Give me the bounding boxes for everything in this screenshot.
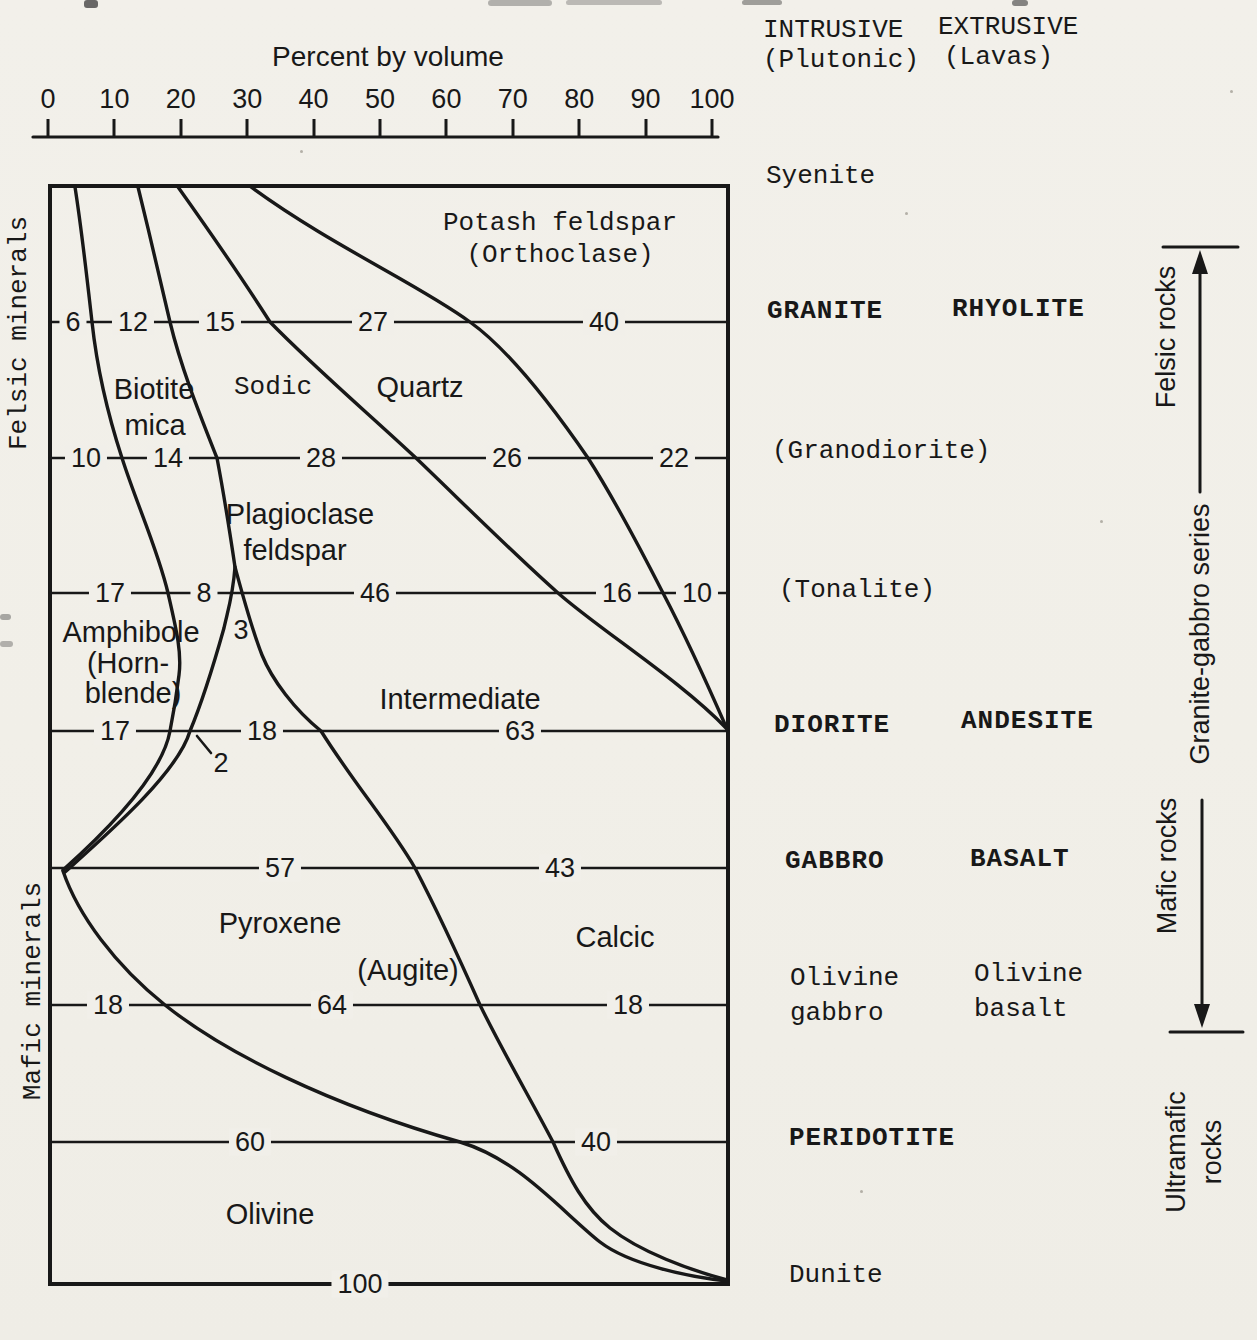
axis-tick-mark bbox=[711, 119, 714, 138]
rock-granite: GRANITE bbox=[767, 295, 883, 329]
value-diorite-amphibole: 17 bbox=[94, 718, 136, 745]
value-granite-biotite: 12 bbox=[112, 309, 154, 336]
column-header-extrusive: EXTRUSIVE bbox=[938, 11, 1078, 45]
field-amphibole-line2: (Horn- bbox=[87, 647, 169, 680]
value-gabbro-left: 57 bbox=[259, 855, 301, 882]
axis-tick-label: 40 bbox=[299, 86, 329, 113]
axis-tick-label: 100 bbox=[689, 86, 734, 113]
rock-dunite: Dunite bbox=[789, 1259, 883, 1293]
field-biotite-line2: mica bbox=[124, 409, 185, 442]
value-diorite-mid: 18 bbox=[241, 718, 283, 745]
value-gabbro-right: 43 bbox=[539, 855, 581, 882]
axis-tick-label: 60 bbox=[431, 86, 461, 113]
value-granodiorite-plagioclase: 28 bbox=[300, 445, 342, 472]
value-olivinegabbro-pyroxene: 64 bbox=[311, 992, 353, 1019]
axis-tick-label: 30 bbox=[232, 86, 262, 113]
rock-syenite: Syenite bbox=[766, 160, 875, 194]
field-augite: (Augite) bbox=[357, 954, 459, 987]
axis-tick-label: 90 bbox=[631, 86, 661, 113]
field-intermediate: Intermediate bbox=[379, 683, 540, 716]
rock-olivine-gabbro-line2: gabbro bbox=[790, 997, 884, 1031]
rock-rhyolite: RHYOLITE bbox=[952, 293, 1085, 327]
side-label-ultramafic-line2: rocks bbox=[1197, 1120, 1228, 1185]
field-quartz: Quartz bbox=[376, 371, 463, 404]
axis-tick-label: 10 bbox=[99, 86, 129, 113]
rock-olivine-gabbro-line1: Olivine bbox=[790, 962, 899, 996]
field-sodic: Sodic bbox=[234, 371, 312, 405]
field-amphibole-line1: Amphibole bbox=[62, 616, 199, 649]
column-header-plutonic: (Plutonic) bbox=[763, 44, 919, 78]
value-granodiorite-amphibole: 10 bbox=[65, 445, 107, 472]
value-granodiorite-biotite: 14 bbox=[147, 445, 189, 472]
side-label-felsic-rocks: Felsic rocks bbox=[1151, 266, 1182, 409]
axis-tick-mark bbox=[113, 119, 116, 138]
value-tonalite-sliver: 3 bbox=[233, 617, 248, 644]
axis-tick-label: 0 bbox=[40, 86, 55, 113]
axis-tick-mark bbox=[312, 119, 315, 138]
value-peridotite-olivine: 60 bbox=[229, 1129, 271, 1156]
value-tonalite-quartz: 16 bbox=[596, 580, 638, 607]
rock-gabbro: GABBRO bbox=[785, 845, 885, 879]
field-potash-feldspar-line2: (Orthoclase) bbox=[466, 239, 653, 273]
value-tonalite-amphibole: 17 bbox=[89, 580, 131, 607]
field-plagioclase-line1: Plagioclase bbox=[226, 498, 374, 531]
side-label-granite-gabbro-series: Granite-gabbro series bbox=[1185, 503, 1216, 764]
left-label-felsic-minerals: Felsic minerals bbox=[3, 216, 37, 450]
diagram-canvas bbox=[0, 0, 1257, 1340]
value-granodiorite-potash: 22 bbox=[653, 445, 695, 472]
rock-tonalite: (Tonalite) bbox=[779, 574, 935, 608]
field-pyroxene: Pyroxene bbox=[219, 907, 342, 940]
rock-olivine-basalt-line1: Olivine bbox=[974, 958, 1083, 992]
column-header-intrusive: INTRUSIVE bbox=[763, 14, 903, 48]
field-biotite-line1: Biotite bbox=[114, 373, 195, 406]
axis-tick-mark bbox=[511, 119, 514, 138]
value-tonalite-biotite: 8 bbox=[190, 580, 217, 607]
axis-title: Percent by volume bbox=[272, 41, 504, 73]
field-plagioclase-line2: feldspar bbox=[243, 534, 346, 567]
axis-tick-mark bbox=[445, 119, 448, 138]
left-label-mafic-minerals: Mafic minerals bbox=[17, 882, 51, 1100]
field-olivine: Olivine bbox=[226, 1198, 315, 1231]
axis-tick-label: 50 bbox=[365, 86, 395, 113]
value-tonalite-potash: 10 bbox=[676, 580, 718, 607]
value-granite-amphibole: 6 bbox=[59, 309, 86, 336]
scanned-figure-page: Percent by volume 0102030405060708090100… bbox=[0, 0, 1257, 1340]
side-label-ultramafic-line1: Ultramafic bbox=[1161, 1091, 1192, 1213]
side-label-mafic-rocks: Mafic rocks bbox=[1152, 798, 1183, 935]
axis-tick-mark bbox=[47, 119, 50, 138]
axis-tick-mark bbox=[246, 119, 249, 138]
arrowhead-up bbox=[1192, 250, 1208, 274]
rock-andesite: ANDESITE bbox=[961, 705, 1094, 739]
leader-line-biotite-sliver bbox=[197, 736, 211, 753]
axis-tick-label: 80 bbox=[564, 86, 594, 113]
value-granite-quartz: 27 bbox=[352, 309, 394, 336]
value-olivinegabbro-olivine: 18 bbox=[87, 992, 129, 1019]
axis-tick-label: 70 bbox=[498, 86, 528, 113]
value-granodiorite-quartz: 26 bbox=[486, 445, 528, 472]
axis-tick-label: 20 bbox=[166, 86, 196, 113]
axis-tick-mark bbox=[179, 119, 182, 138]
rock-olivine-basalt-line2: basalt bbox=[974, 993, 1068, 1027]
value-granite-potash: 40 bbox=[583, 309, 625, 336]
axis-tick-mark bbox=[379, 119, 382, 138]
arrowhead-down bbox=[1194, 1004, 1210, 1028]
value-tonalite-plagioclase: 46 bbox=[354, 580, 396, 607]
curve-biotite-boundary bbox=[65, 187, 235, 872]
rock-peridotite: PERIDOTITE bbox=[789, 1122, 955, 1156]
value-peridotite-pyroxene: 40 bbox=[575, 1129, 617, 1156]
field-amphibole-line3: blende) bbox=[85, 677, 182, 710]
rock-basalt: BASALT bbox=[970, 843, 1070, 877]
axis-tick-mark bbox=[644, 119, 647, 138]
rock-granodiorite: (Granodiorite) bbox=[772, 435, 990, 469]
value-diorite-plagioclase: 63 bbox=[499, 718, 541, 745]
column-header-lavas: (Lavas) bbox=[944, 41, 1053, 75]
field-potash-feldspar-line1: Potash feldspar bbox=[443, 207, 677, 241]
value-olivinegabbro-calcic: 18 bbox=[607, 992, 649, 1019]
axis-tick-mark bbox=[578, 119, 581, 138]
value-dunite-olivine: 100 bbox=[331, 1271, 388, 1298]
rock-diorite: DIORITE bbox=[774, 709, 890, 743]
value-diorite-biotite-sliver: 2 bbox=[213, 750, 228, 777]
field-calcic: Calcic bbox=[576, 921, 655, 954]
value-granite-plagioclase: 15 bbox=[199, 309, 241, 336]
